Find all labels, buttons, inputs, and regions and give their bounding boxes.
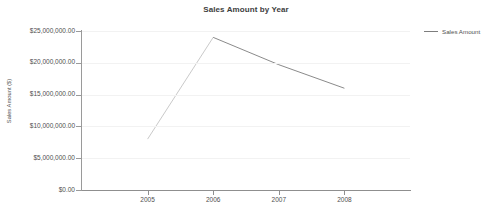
chart-container: Sales Amount by Year Sales Amount ($) $2… [0,0,497,213]
series-segment [148,37,214,139]
chart-title: Sales Amount by Year [82,5,410,14]
y-tick-mark [76,190,81,191]
y-tick-label: $5,000,000.00 [33,155,75,162]
y-tick-mark [76,158,81,159]
legend-line-swatch [424,31,438,32]
gridline [82,63,410,64]
y-tick-label: $20,000,000.00 [30,59,75,66]
y-tick-label: $10,000,000.00 [30,123,75,130]
gridline [82,126,410,127]
y-tick-label: $0.00 [59,187,75,194]
x-tick-label: 2008 [314,196,374,203]
x-tick-mark [213,191,214,195]
x-axis-line [82,190,411,191]
y-tick-mark [76,126,81,127]
x-tick-mark [148,191,149,195]
gridline [82,158,410,159]
series-segment [213,37,279,64]
plot-area [82,31,410,190]
gridline [82,95,410,96]
x-tick-mark [344,191,345,195]
y-tick-mark [76,31,81,32]
y-axis-title: Sales Amount ($) [6,61,12,141]
y-tick-mark [76,63,81,64]
x-tick-label: 2005 [118,196,178,203]
y-tick-label: $25,000,000.00 [30,28,75,35]
gridline [82,31,410,32]
legend-label-sales-amount: Sales Amount [442,28,480,35]
data-series-line [82,31,410,190]
x-tick-label: 2006 [183,196,243,203]
series-segment [279,65,345,89]
y-tick-mark [76,95,81,96]
chart-legend: Sales Amount [424,28,480,35]
x-tick-label: 2007 [249,196,309,203]
y-tick-label: $15,000,000.00 [30,91,75,98]
x-tick-mark [279,191,280,195]
